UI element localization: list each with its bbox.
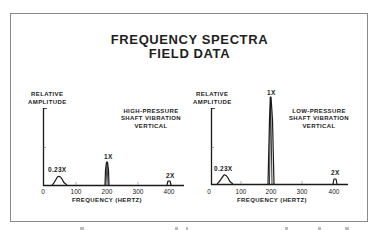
right-peaks xyxy=(217,97,337,184)
left-axes xyxy=(43,108,184,186)
right-axes xyxy=(211,108,348,185)
left-peaks xyxy=(52,162,171,185)
plot-graphics xyxy=(0,0,379,230)
cropped-caption-text xyxy=(0,226,379,230)
